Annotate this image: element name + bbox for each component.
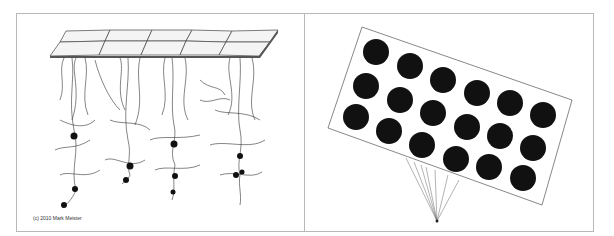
neuron-drawing: [17, 14, 304, 231]
wire-convergence-point: [436, 220, 439, 223]
electrode-array-panel: [305, 14, 593, 231]
copyright-credit: (c) 2010 Mark Meister: [33, 215, 82, 221]
electrode-array-diagram: [305, 14, 593, 231]
neuron-drawing-panel: (c) 2010 Mark Meister: [17, 14, 304, 231]
